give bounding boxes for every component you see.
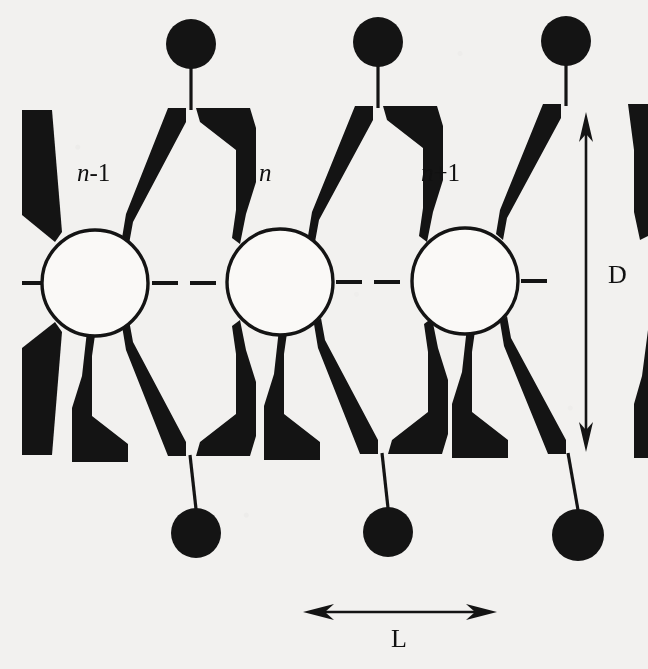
ball-top-middle-icon [353, 17, 403, 67]
ball-top-right-icon [541, 16, 591, 66]
arm-top-apex1-right [196, 108, 256, 244]
arm-bottom-edge-left [22, 322, 62, 455]
ball-bottom-right-icon [552, 509, 604, 561]
arm-bottom-apex-b-right [388, 318, 448, 454]
bottom-arms-group [22, 316, 648, 462]
label-unit-n-base: n [259, 159, 272, 186]
arm-bottom-edge-right [634, 330, 648, 458]
unit-n-plus-1-circle [412, 228, 518, 334]
arm-bottom-apex-a-right [196, 320, 256, 456]
label-unit-n-plus-1-suffix: +1 [434, 159, 461, 186]
label-unit-n: n [259, 160, 272, 185]
ball-bottom-middle-icon [363, 507, 413, 557]
arm-bottom-n-plus-1-right [500, 316, 566, 454]
label-dimension-d: D [608, 262, 627, 288]
arm-top-n-right [308, 106, 373, 242]
stem-bottom-left [190, 455, 196, 509]
arm-bottom-n-plus-1-left [452, 318, 508, 458]
arm-top-edge-right [628, 104, 648, 240]
arm-bottom-n-minus-1-right [122, 320, 186, 456]
label-unit-n-plus-1-base: n [421, 159, 434, 186]
arm-bottom-n-right [314, 318, 378, 454]
diagram-svg [0, 0, 648, 669]
stem-bottom-middle [382, 453, 388, 508]
arm-top-edge-left [22, 110, 62, 242]
unit-n-circle [227, 229, 333, 335]
ball-top-left-icon [166, 19, 216, 69]
label-unit-n-minus-1: n-1 [77, 160, 110, 185]
figure-canvas: n-1 n n+1 D L [0, 0, 648, 669]
ball-bottom-left-icon [171, 508, 221, 558]
backbone-circles-group [42, 228, 518, 336]
label-unit-n-plus-1: n+1 [421, 160, 460, 185]
dimension-arrow-horizontal [303, 604, 497, 620]
label-unit-n-minus-1-base: n [77, 159, 90, 186]
arm-top-n-plus-1-right [496, 104, 561, 240]
edge-arms-group [628, 104, 648, 240]
arm-top-n-minus-1-right [122, 108, 186, 244]
label-unit-n-minus-1-suffix: -1 [90, 159, 111, 186]
arm-bottom-n-left [264, 320, 320, 460]
arm-bottom-n-minus-1-left [72, 322, 128, 462]
stem-bottom-right [568, 453, 578, 510]
unit-n-minus-1-circle [42, 230, 148, 336]
label-dimension-l: L [391, 626, 407, 652]
dimension-arrow-vertical [579, 112, 593, 452]
